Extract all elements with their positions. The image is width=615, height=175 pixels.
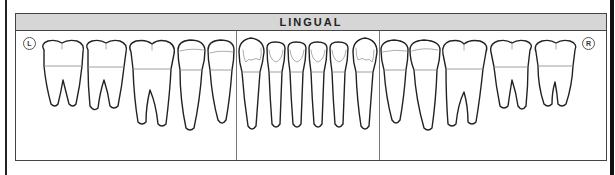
tooth-6[interactable] (239, 38, 264, 129)
tooth-11[interactable] (353, 38, 377, 129)
tooth-9[interactable] (309, 42, 327, 127)
tooth-16[interactable] (535, 40, 576, 106)
tooth-4[interactable] (178, 40, 205, 130)
tooth-2[interactable] (87, 40, 127, 109)
tooth-13[interactable] (410, 40, 440, 130)
tooth-5[interactable] (208, 40, 234, 123)
tooth-1[interactable] (43, 40, 84, 106)
tooth-3[interactable] (130, 40, 175, 126)
teeth-diagram (0, 0, 615, 175)
tooth-12[interactable] (381, 40, 408, 123)
tooth-15[interactable] (491, 40, 532, 109)
tooth-8[interactable] (288, 42, 306, 127)
tooth-7[interactable] (267, 42, 285, 127)
tooth-10[interactable] (330, 42, 348, 127)
tooth-14[interactable] (443, 40, 487, 126)
